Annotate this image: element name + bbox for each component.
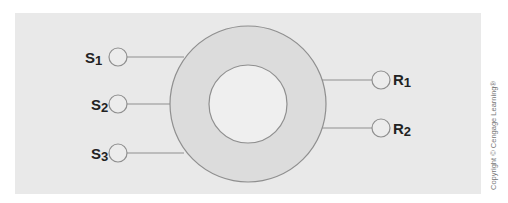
ring-network-diagram: S1 S2 S3 R1 R2 [0, 0, 508, 203]
node-s3 [109, 144, 127, 162]
inner-hole [209, 65, 287, 143]
node-s1 [109, 48, 127, 66]
node-s2 [109, 95, 127, 113]
node-r2 [372, 119, 390, 137]
copyright-notice: Copyright © Cengage Learning® [489, 81, 498, 190]
node-r1 [372, 71, 390, 89]
